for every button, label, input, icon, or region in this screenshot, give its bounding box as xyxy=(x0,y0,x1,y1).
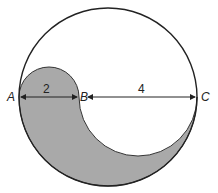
point-b-label: B xyxy=(80,90,88,104)
point-a-label: A xyxy=(6,90,15,104)
length-ab-label: 2 xyxy=(43,82,50,96)
diagram-canvas: A B C 2 4 xyxy=(0,0,218,193)
point-c-label: C xyxy=(201,90,210,104)
length-bc-label: 4 xyxy=(138,82,145,96)
